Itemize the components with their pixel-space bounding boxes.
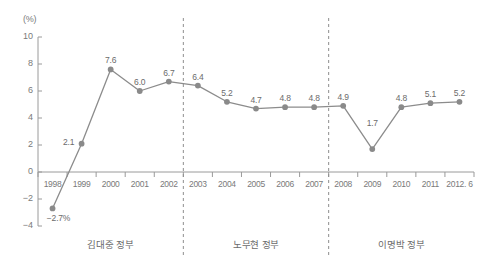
x-axis-tick-label: 2004 (212, 179, 241, 189)
data-point-value-label: 4.9 (329, 92, 357, 102)
data-point-marker (398, 104, 404, 110)
y-axis-tick-label: 4 (8, 112, 33, 122)
data-point-marker (195, 83, 201, 89)
data-point-value-label: 4.8 (271, 93, 299, 103)
x-axis-tick-label: 2002 (154, 179, 183, 189)
data-point-marker (108, 67, 114, 73)
y-axis-tick-label: 8 (8, 58, 33, 68)
y-axis-tick-label: 2 (8, 139, 33, 149)
data-point-marker (224, 99, 230, 105)
data-point-value-label: 7.6 (97, 55, 125, 65)
x-axis-tick-label: 1999 (67, 179, 96, 189)
era-roh-moo-hyun: 노무현 정부 (196, 237, 316, 251)
x-axis-tick-label: 2010 (387, 179, 416, 189)
x-axis-tick-label: 2008 (329, 179, 358, 189)
x-axis-tick-label: 2000 (96, 179, 125, 189)
data-point-marker (428, 100, 434, 106)
data-point-marker (340, 103, 346, 109)
x-axis-tick-label: 2001 (125, 179, 154, 189)
data-point-marker (166, 79, 172, 85)
data-point-value-label: −2.7% (45, 213, 73, 223)
data-point-value-label: 1.7 (358, 118, 386, 128)
data-point-marker (137, 88, 143, 94)
data-point-value-label: 4.8 (387, 93, 415, 103)
data-point-value-label: 6.0 (126, 77, 154, 87)
x-axis-tick-label: 2005 (241, 179, 270, 189)
data-point-marker (311, 104, 317, 110)
y-axis-tick-label: −4 (8, 220, 33, 230)
data-point-marker (253, 106, 259, 112)
x-axis-tick-label: 2011 (416, 179, 445, 189)
data-point-marker (369, 146, 375, 152)
data-point-value-label: 5.2 (213, 88, 241, 98)
y-axis-tick-label: −2 (8, 193, 33, 203)
y-axis-tick-label: 0 (8, 166, 33, 176)
y-axis-tick-label: 6 (8, 85, 33, 95)
chart-container: (%) 1086420−2−4 199819992000200120022003… (0, 0, 493, 275)
y-axis-tick-label: 10 (8, 31, 33, 41)
x-axis-tick-label: 2012. 6 (445, 179, 474, 189)
x-axis-tick-label: 1998 (38, 179, 67, 189)
x-axis-tick-label: 2006 (271, 179, 300, 189)
data-point-marker (50, 206, 56, 212)
data-point-value-label: 4.7 (242, 95, 270, 105)
x-axis-tick-label: 2009 (358, 179, 387, 189)
data-point-value-label: 5.1 (416, 89, 444, 99)
data-point-value-label: 6.7 (155, 68, 183, 78)
data-point-value-label: 2.1 (55, 137, 83, 147)
data-point-value-label: 4.8 (300, 93, 328, 103)
x-axis-tick-label: 2003 (183, 179, 212, 189)
data-point-value-label: 5.2 (445, 88, 473, 98)
data-point-marker (282, 104, 288, 110)
era-kim-dae-jung: 김대중 정부 (51, 237, 171, 251)
x-axis-tick-label: 2007 (300, 179, 329, 189)
data-point-marker (457, 99, 463, 105)
data-point-value-label: 6.4 (184, 72, 212, 82)
era-lee-myung-bak: 이명박 정부 (341, 237, 461, 251)
